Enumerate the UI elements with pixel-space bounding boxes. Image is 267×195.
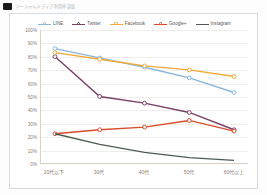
data-point-marker <box>232 91 236 95</box>
data-point-marker <box>143 101 147 105</box>
chart-legend: LINETwitterFacebookGoogle+Instagram <box>10 19 259 29</box>
legend-label: Google+ <box>169 21 187 27</box>
plot-area <box>40 30 248 164</box>
y-axis-tick-label: 50% <box>28 95 37 100</box>
data-point-marker <box>187 111 191 115</box>
data-point-marker <box>187 68 191 72</box>
y-axis-tick-label: 10% <box>28 148 37 153</box>
legend-item-line[interactable]: LINE <box>38 21 63 27</box>
plot-wrapper: 0%10%20%30%40%50%60%70%80%90%100% 20代以下3… <box>10 30 259 188</box>
data-point-marker <box>232 129 236 133</box>
y-axis-tick-label: 60% <box>28 81 37 86</box>
data-point-marker <box>143 125 147 129</box>
y-axis-tick-label: 30% <box>28 121 37 126</box>
data-point-marker <box>187 76 191 80</box>
chart-container: LINETwitterFacebookGoogle+Instagram 0%10… <box>9 13 258 189</box>
y-axis-tick-label: 20% <box>28 135 37 140</box>
window-header: ソーシャルメディア利用率調査 <box>0 0 267 12</box>
legend-item-facebook[interactable]: Facebook <box>110 21 145 27</box>
legend-swatch-icon <box>72 21 85 27</box>
y-axis-tick-label: 70% <box>28 68 37 73</box>
legend-item-twitter[interactable]: Twitter <box>72 21 101 27</box>
series-line-line <box>55 49 234 93</box>
data-point-marker <box>53 55 57 59</box>
data-point-marker <box>143 64 147 68</box>
data-point-marker <box>187 119 191 123</box>
header-title: ソーシャルメディア利用率調査 <box>15 3 75 10</box>
legend-label: Twitter <box>87 21 101 27</box>
chart-screenshot: ソーシャルメディア利用率調査 LINETwitterFacebookGoogle… <box>0 0 267 195</box>
legend-label: Instagram <box>211 21 231 27</box>
data-point-marker <box>53 47 57 51</box>
y-axis-tick-label: 40% <box>28 108 37 113</box>
x-axis: 20代以下30代40代50代60代以上 <box>40 166 248 180</box>
x-axis-tick-label: 60代以上 <box>224 168 245 175</box>
legend-swatch-icon <box>196 21 209 27</box>
app-square-icon <box>3 3 12 10</box>
y-axis: 0%10%20%30%40%50%60%70%80%90%100% <box>10 30 40 164</box>
series-lines <box>41 30 248 163</box>
legend-item-google-[interactable]: Google+ <box>154 21 187 27</box>
data-point-marker <box>98 57 102 61</box>
x-axis-tick-label: 20代以下 <box>44 168 65 175</box>
x-axis-tick-label: 40代 <box>139 168 150 175</box>
legend-swatch-icon <box>38 21 51 27</box>
legend-swatch-icon <box>110 21 123 27</box>
x-axis-tick-label: 30代 <box>94 168 105 175</box>
series-line-instagram <box>55 134 234 161</box>
data-point-marker <box>53 51 57 55</box>
legend-label: LINE <box>53 21 63 27</box>
data-point-marker <box>98 95 102 99</box>
data-point-marker <box>98 128 102 132</box>
y-axis-tick-label: 0% <box>30 162 37 167</box>
y-axis-tick-label: 90% <box>28 41 37 46</box>
y-axis-tick-label: 100% <box>25 28 37 33</box>
legend-label: Facebook <box>125 21 145 27</box>
legend-item-instagram[interactable]: Instagram <box>196 21 231 27</box>
x-axis-tick-label: 50代 <box>184 168 195 175</box>
y-axis-tick-label: 80% <box>28 54 37 59</box>
legend-swatch-icon <box>154 21 167 27</box>
data-point-marker <box>232 75 236 79</box>
